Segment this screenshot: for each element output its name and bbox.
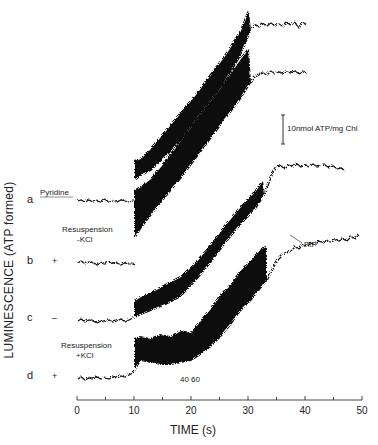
ptp-arrow — [290, 235, 302, 243]
x-tick-50: 50 — [352, 405, 372, 416]
trace-c-sign: – — [52, 313, 57, 323]
x-axis — [77, 396, 362, 400]
x-tick-20: 20 — [181, 405, 201, 416]
trace-a-label: a — [27, 193, 33, 205]
x-tick-10: 10 — [124, 405, 144, 416]
x-tick-0: 0 — [67, 405, 87, 416]
trace-b-sign: + — [52, 256, 57, 266]
resuspension-plus-label: Resuspension — [61, 341, 112, 350]
ptp-label: PtP — [304, 240, 317, 249]
pyridine-label: Pyridine — [40, 188, 69, 197]
trace-b-label: b — [27, 254, 33, 266]
speed-label: 40 60 — [180, 375, 200, 384]
luminescence-chart: LUMINESCENCE (ATP formed) Pyridine a Res… — [0, 0, 378, 445]
trace-c-label: c — [27, 311, 33, 323]
trace-d-label: d — [27, 369, 33, 381]
x-tick-30: 30 — [238, 405, 258, 416]
scale-bar-label: 10nmol ATP/mg Chl — [287, 124, 358, 133]
x-axis-label: TIME (s) — [170, 423, 216, 437]
trace-d — [77, 234, 358, 379]
x-tick-40: 40 — [295, 405, 315, 416]
trace-d-sign: + — [52, 371, 57, 381]
y-axis-label: LUMINESCENCE (ATP formed) — [2, 150, 18, 390]
minus-kcl-label: -KCl — [77, 235, 93, 244]
plus-kcl-label: +KCl — [76, 351, 94, 360]
resuspension-minus-label: Resuspension — [62, 225, 113, 234]
